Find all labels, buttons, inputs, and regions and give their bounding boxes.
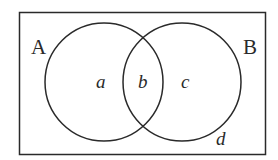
region-a-label: a (96, 71, 106, 92)
venn-diagram: A B a b c d (0, 0, 278, 160)
set-a-label: A (31, 35, 47, 59)
set-b-label: B (243, 35, 257, 59)
region-b-label: b (138, 71, 148, 92)
region-c-label: c (181, 71, 190, 92)
region-d-label: d (216, 128, 226, 149)
